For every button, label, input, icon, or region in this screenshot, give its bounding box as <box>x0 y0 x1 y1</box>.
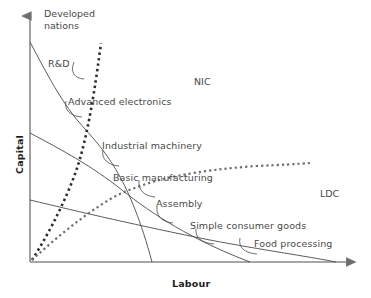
isoquant-curve-1 <box>30 42 152 262</box>
y-axis-label: Capital <box>14 135 25 174</box>
industry-label-basic-manufacturing: Basic manufacturing <box>113 172 213 184</box>
industry-label-food-processing: Food processing <box>254 238 333 250</box>
diagram-canvas: Developed nations NIC LDC R&D Advanced e… <box>0 0 371 298</box>
region-label-ldc: LDC <box>320 188 339 200</box>
industry-label-simple-consumer-goods: Simple consumer goods <box>190 220 306 232</box>
industry-label-rd: R&D <box>48 58 70 70</box>
leader-rd <box>72 62 84 79</box>
industry-label-industrial-machinery: Industrial machinery <box>102 140 202 152</box>
industry-label-advanced-electronics: Advanced electronics <box>68 96 172 108</box>
industry-label-assembly: Assembly <box>156 198 203 210</box>
leader-industrial-machinery <box>103 150 119 166</box>
y-axis-label-wrap: Capital <box>2 112 16 182</box>
region-label-developed-nations: Developed nations <box>44 8 95 31</box>
x-axis-label: Labour <box>172 278 210 289</box>
region-label-nic: NIC <box>194 76 211 88</box>
boundary-developed-nic <box>32 43 101 260</box>
isoquant-curve-2 <box>30 133 250 262</box>
